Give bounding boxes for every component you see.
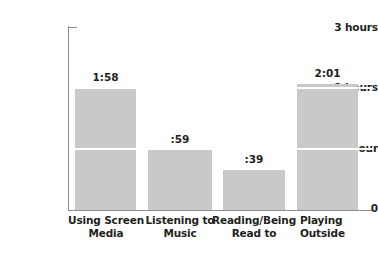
bar-value-label-playing-outside: 2:01: [297, 68, 358, 79]
bar-value-label-listening-to-music: :59: [148, 134, 212, 145]
category-label-line2: Read to: [209, 227, 299, 240]
category-label-line2: Outside: [300, 227, 374, 240]
bar-value-label-using-screen-media: 1:58: [75, 72, 136, 83]
y-tick-mark-3-hours: [69, 27, 77, 28]
bar-chart: 3 hours 2 hours 1 hour 0 1:58 :59 :39 2:…: [0, 0, 378, 253]
bar-value-label-reading-being-read-to: :39: [223, 154, 285, 165]
bar-playing-outside: [297, 84, 358, 210]
category-label-playing-outside: Playing Outside: [300, 214, 374, 240]
y-axis-line: [68, 26, 69, 211]
bar-listening-to-music: [148, 150, 212, 210]
category-label-reading-being-read-to: Reading/Being Read to: [209, 214, 299, 240]
category-label-line1: Playing: [300, 214, 374, 227]
bar-reading-being-read-to: [223, 170, 285, 210]
gridline-2-hours: [69, 87, 373, 89]
category-label-line1: Reading/Being: [209, 214, 299, 227]
y-tick-label-3-hours: 3 hours: [320, 22, 378, 33]
gridline-1-hour: [69, 148, 373, 150]
